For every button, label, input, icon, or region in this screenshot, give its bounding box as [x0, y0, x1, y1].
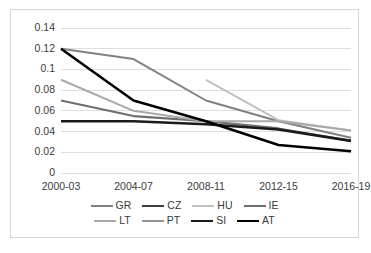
legend-item-pt[interactable]: PT — [142, 215, 180, 226]
y-axis-tick-label: 0.04 — [13, 126, 55, 137]
legend-label: GR — [116, 200, 132, 211]
legend-item-si[interactable]: SI — [191, 215, 226, 226]
y-axis-tick-label: 0.1 — [13, 63, 55, 74]
legend-swatch-hu — [192, 205, 214, 207]
legend-label: LT — [119, 215, 130, 226]
legend-label: IE — [269, 200, 279, 211]
y-axis-tick-label: 0.12 — [13, 43, 55, 54]
legend-swatch-at — [237, 220, 259, 222]
legend-label: PT — [167, 215, 180, 226]
chart-container: 00.020.040.060.080.10.120.14 2000-032004… — [10, 9, 359, 238]
legend-swatch-cz — [142, 205, 164, 207]
series-line-lt — [61, 80, 351, 131]
x-axis-tick-label: 2016-19 — [323, 181, 371, 192]
y-axis-tick-label: 0 — [13, 167, 55, 178]
legend-item-ie[interactable]: IE — [244, 200, 279, 211]
x-axis-tick-label: 2008-11 — [178, 181, 234, 192]
y-axis-tick-label: 0.06 — [13, 105, 55, 116]
legend-item-lt[interactable]: LT — [94, 215, 130, 226]
legend-swatch-pt — [142, 220, 164, 222]
y-axis-tick-label: 0.14 — [13, 22, 55, 33]
x-axis-tick-label: 2004-07 — [106, 181, 162, 192]
legend-item-gr[interactable]: GR — [91, 200, 132, 211]
legend-swatch-lt — [94, 220, 116, 222]
y-axis-tick-label: 0.08 — [13, 84, 55, 95]
legend-item-at[interactable]: AT — [237, 215, 275, 226]
legend-item-cz[interactable]: CZ — [142, 200, 181, 211]
legend-swatch-gr — [91, 205, 113, 207]
legend-swatch-si — [191, 220, 213, 222]
legend-label: SI — [216, 215, 226, 226]
legend-swatch-ie — [244, 205, 266, 207]
y-axis-tick-label: 0.02 — [13, 146, 55, 157]
series-lines — [61, 49, 351, 152]
legend-item-hu[interactable]: HU — [192, 200, 232, 211]
x-axis-tick-label: 2000-03 — [33, 181, 89, 192]
legend-row: GRCZHUIE — [11, 200, 358, 211]
legend-row: LTPTSIAT — [11, 215, 358, 226]
legend-label: CZ — [167, 200, 181, 211]
legend-label: AT — [262, 215, 275, 226]
x-axis-tick-label: 2012-15 — [251, 181, 307, 192]
legend-label: HU — [217, 200, 232, 211]
